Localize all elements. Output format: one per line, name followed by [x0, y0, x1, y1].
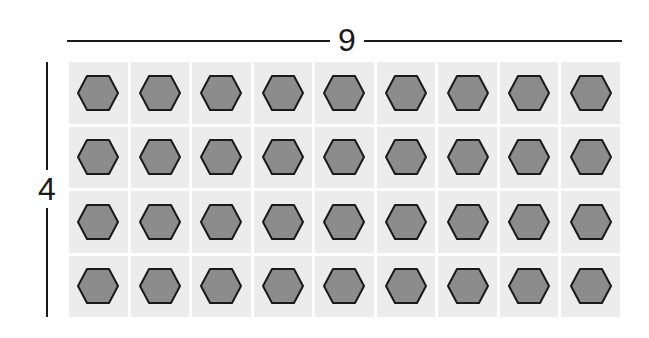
- hexagon-icon: [199, 138, 243, 176]
- hexagon-icon: [384, 74, 428, 112]
- grid-cell: [131, 191, 190, 253]
- hexagon-icon: [261, 267, 305, 305]
- grid-cell: [315, 191, 374, 253]
- hexagon-icon: [138, 138, 182, 176]
- grid-cell: [377, 191, 436, 253]
- hexagon-icon: [569, 74, 613, 112]
- hexagon-icon: [199, 203, 243, 241]
- grid-cell: [561, 191, 620, 253]
- grid-cell: [377, 256, 436, 318]
- grid-cell: [315, 62, 374, 124]
- grid-cell: [192, 256, 251, 318]
- grid-cell: [500, 127, 559, 189]
- hexagon-icon: [507, 203, 551, 241]
- hexagon-icon: [322, 138, 366, 176]
- hexagon-icon: [199, 267, 243, 305]
- grid-cell: [69, 127, 128, 189]
- hexagon-icon: [322, 203, 366, 241]
- hexagon-icon: [138, 267, 182, 305]
- hexagon-icon: [384, 138, 428, 176]
- grid-cell: [192, 127, 251, 189]
- grid-cell: [438, 127, 497, 189]
- grid-cell: [315, 127, 374, 189]
- grid-cell: [561, 127, 620, 189]
- hexagon-icon: [322, 74, 366, 112]
- grid-cell: [192, 191, 251, 253]
- hexagon-icon: [384, 203, 428, 241]
- hexagon-icon: [76, 203, 120, 241]
- hexagon-icon: [138, 74, 182, 112]
- grid-cell: [131, 256, 190, 318]
- hexagon-array-grid: [69, 62, 620, 317]
- hexagon-icon: [507, 138, 551, 176]
- hexagon-icon: [138, 203, 182, 241]
- grid-cell: [131, 127, 190, 189]
- hexagon-icon: [569, 267, 613, 305]
- grid-cell: [561, 62, 620, 124]
- grid-cell: [377, 62, 436, 124]
- rows-label: 4: [32, 170, 62, 208]
- columns-label: 9: [330, 22, 364, 58]
- grid-cell: [254, 62, 313, 124]
- grid-cell: [254, 191, 313, 253]
- hexagon-icon: [446, 267, 490, 305]
- hexagon-icon: [507, 74, 551, 112]
- hexagon-icon: [446, 74, 490, 112]
- grid-cell: [561, 256, 620, 318]
- grid-cell: [500, 191, 559, 253]
- hexagon-icon: [261, 203, 305, 241]
- grid-cell: [69, 191, 128, 253]
- hexagon-icon: [76, 267, 120, 305]
- grid-cell: [131, 62, 190, 124]
- grid-cell: [315, 256, 374, 318]
- grid-cell: [438, 256, 497, 318]
- grid-cell: [69, 62, 128, 124]
- grid-cell: [254, 256, 313, 318]
- hexagon-icon: [446, 203, 490, 241]
- grid-cell: [377, 127, 436, 189]
- hexagon-icon: [446, 138, 490, 176]
- hexagon-icon: [507, 267, 551, 305]
- grid-cell: [500, 256, 559, 318]
- hexagon-icon: [76, 74, 120, 112]
- grid-cell: [438, 62, 497, 124]
- hexagon-icon: [261, 138, 305, 176]
- grid-cell: [192, 62, 251, 124]
- hexagon-icon: [261, 74, 305, 112]
- hexagon-icon: [199, 74, 243, 112]
- hexagon-icon: [322, 267, 366, 305]
- hexagon-icon: [569, 203, 613, 241]
- grid-cell: [69, 256, 128, 318]
- grid-cell: [438, 191, 497, 253]
- hexagon-icon: [76, 138, 120, 176]
- grid-cell: [500, 62, 559, 124]
- hexagon-icon: [569, 138, 613, 176]
- hexagon-icon: [384, 267, 428, 305]
- grid-cell: [254, 127, 313, 189]
